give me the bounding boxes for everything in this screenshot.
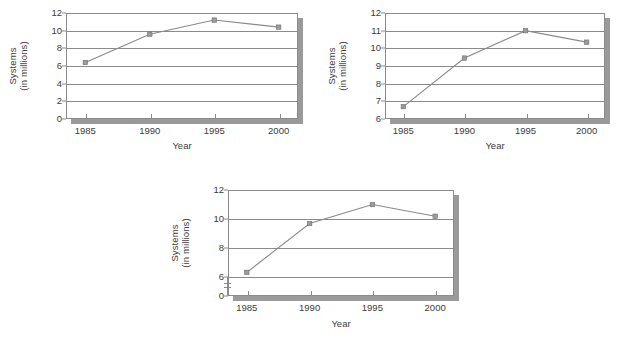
y-tick-label: 6 bbox=[206, 273, 224, 283]
x-tick-label: 1995 bbox=[204, 126, 225, 136]
x-tick-mark bbox=[280, 114, 281, 118]
y-axis-title-line1: Systems bbox=[326, 38, 337, 94]
plot-shadow-bottom bbox=[390, 119, 610, 124]
y-tick-label: 2 bbox=[44, 97, 62, 107]
plot-area bbox=[66, 13, 298, 119]
y-tick-mark bbox=[381, 66, 385, 67]
plot-shadow-bottom bbox=[71, 119, 303, 124]
gridline bbox=[386, 31, 604, 32]
y-tick-label: 10 bbox=[206, 214, 224, 224]
y-axis-title: Systems(in millions) bbox=[326, 38, 348, 94]
y-axis-title-line1: Systems bbox=[7, 38, 18, 94]
y-tick-label: 10 bbox=[363, 44, 381, 54]
y-tick-label: 11 bbox=[363, 26, 381, 36]
x-tick-mark bbox=[588, 114, 589, 118]
x-tick-label: 1990 bbox=[299, 303, 320, 313]
y-tick-mark bbox=[381, 13, 385, 14]
y-tick-label: 6 bbox=[363, 114, 381, 124]
y-axis-title-line2: (in millions) bbox=[337, 38, 348, 94]
figure-three-line-charts: 024681012Systems(in millions)19851990199… bbox=[0, 0, 636, 343]
y-tick-mark bbox=[381, 83, 385, 84]
y-tick-mark bbox=[381, 30, 385, 31]
x-tick-mark bbox=[527, 114, 528, 118]
y-tick-label: 8 bbox=[363, 79, 381, 89]
x-axis-title: Year bbox=[301, 318, 381, 329]
plot-shadow-right bbox=[298, 18, 303, 124]
plot-area bbox=[385, 13, 605, 119]
y-tick-mark bbox=[224, 219, 228, 220]
y-tick-label: 6 bbox=[44, 61, 62, 71]
y-tick-label: 10 bbox=[44, 26, 62, 36]
x-tick-label: 1990 bbox=[454, 126, 475, 136]
y-tick-mark bbox=[381, 48, 385, 49]
gridline bbox=[229, 248, 453, 249]
y-tick-label: 0 bbox=[206, 291, 224, 301]
y-axis-title-line2: (in millions) bbox=[18, 38, 29, 94]
x-tick-mark bbox=[373, 291, 374, 295]
y-tick-label: 0 bbox=[44, 114, 62, 124]
x-tick-label: 1990 bbox=[139, 126, 160, 136]
y-tick-label: 12 bbox=[44, 8, 62, 18]
y-tick-label: 12 bbox=[363, 8, 381, 18]
x-tick-label: 1995 bbox=[362, 303, 383, 313]
x-tick-mark bbox=[465, 114, 466, 118]
gridline bbox=[386, 101, 604, 102]
y-tick-label: 9 bbox=[363, 61, 381, 71]
plot-shadow-right bbox=[454, 195, 459, 301]
y-tick-mark bbox=[62, 83, 66, 84]
y-tick-label: 8 bbox=[206, 244, 224, 254]
y-axis-title: Systems(in millions) bbox=[7, 38, 29, 94]
gridline bbox=[386, 66, 604, 67]
y-tick-mark bbox=[224, 248, 228, 249]
gridline bbox=[67, 101, 297, 102]
y-tick-mark bbox=[62, 30, 66, 31]
gridline bbox=[67, 31, 297, 32]
x-tick-label: 1995 bbox=[515, 126, 536, 136]
y-tick-mark bbox=[224, 190, 228, 191]
y-tick-mark bbox=[62, 66, 66, 67]
x-tick-mark bbox=[151, 114, 152, 118]
x-axis-title: Year bbox=[142, 140, 222, 151]
gridline bbox=[67, 66, 297, 67]
gridline bbox=[386, 84, 604, 85]
x-tick-label: 1985 bbox=[236, 303, 257, 313]
x-tick-label: 1985 bbox=[75, 126, 96, 136]
y-tick-mark bbox=[62, 13, 66, 14]
gridline bbox=[67, 84, 297, 85]
plot-shadow-right bbox=[605, 18, 610, 124]
x-tick-label: 1985 bbox=[393, 126, 414, 136]
y-tick-mark bbox=[62, 48, 66, 49]
x-tick-mark bbox=[215, 114, 216, 118]
x-tick-label: 2000 bbox=[576, 126, 597, 136]
y-tick-mark bbox=[381, 119, 385, 120]
x-tick-mark bbox=[248, 291, 249, 295]
y-tick-mark bbox=[381, 101, 385, 102]
x-tick-label: 2000 bbox=[425, 303, 446, 313]
y-tick-mark bbox=[62, 119, 66, 120]
x-axis-title: Year bbox=[455, 140, 535, 151]
y-axis-title-line2: (in millions) bbox=[180, 215, 191, 271]
gridline bbox=[67, 48, 297, 49]
y-axis-title-line1: Systems bbox=[169, 215, 180, 271]
gridline bbox=[229, 277, 453, 278]
x-tick-mark bbox=[86, 114, 87, 118]
gridline bbox=[229, 219, 453, 220]
y-tick-label: 4 bbox=[44, 79, 62, 89]
y-axis-break-icon bbox=[224, 283, 232, 289]
x-tick-mark bbox=[404, 114, 405, 118]
gridline bbox=[386, 48, 604, 49]
y-tick-label: 8 bbox=[44, 44, 62, 54]
y-tick-label: 7 bbox=[363, 97, 381, 107]
plot-area bbox=[228, 190, 454, 296]
y-tick-mark bbox=[62, 101, 66, 102]
plot-shadow-bottom bbox=[233, 296, 459, 301]
x-tick-label: 2000 bbox=[268, 126, 289, 136]
y-tick-label: 12 bbox=[206, 185, 224, 195]
x-tick-mark bbox=[436, 291, 437, 295]
x-tick-mark bbox=[311, 291, 312, 295]
y-axis-title: Systems(in millions) bbox=[169, 215, 191, 271]
